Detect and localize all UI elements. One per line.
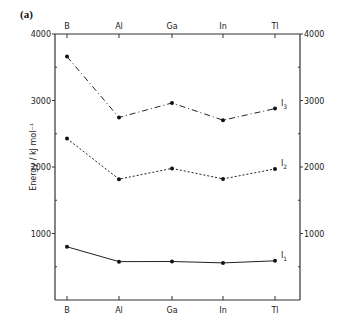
- y-label-left: 1000: [31, 230, 51, 239]
- data-point: [273, 259, 277, 263]
- data-point: [221, 118, 225, 122]
- data-point: [273, 107, 277, 111]
- y-label-left: 4000: [31, 30, 51, 39]
- data-point: [117, 177, 121, 181]
- x-label-top: Ga: [166, 22, 177, 31]
- x-label-bottom: In: [219, 306, 226, 315]
- series-label-I3: I3: [281, 99, 287, 110]
- data-point: [65, 245, 69, 249]
- data-point: [170, 101, 174, 105]
- x-label-bottom: Tl: [270, 306, 278, 315]
- data-point: [273, 167, 277, 171]
- x-label-top: Al: [115, 22, 123, 31]
- x-label-top: In: [219, 22, 226, 31]
- data-point: [221, 261, 225, 265]
- y-label-left: 3000: [31, 97, 51, 106]
- x-label-bottom: B: [64, 306, 70, 315]
- series-line-I3: [67, 57, 275, 121]
- y-label-right: 2000: [304, 163, 324, 172]
- data-point: [170, 166, 174, 170]
- data-point: [170, 259, 174, 263]
- data-point: [65, 55, 69, 59]
- y-label-right: 3000: [304, 97, 324, 106]
- series-label-I2: I2: [281, 159, 287, 170]
- data-point: [221, 177, 225, 181]
- data-point: [117, 115, 121, 119]
- ionization-energy-chart: BBAlAlGaGaInInTlTl1000100020002000300030…: [0, 0, 338, 332]
- x-label-top: Tl: [270, 22, 278, 31]
- series-label-I1: I1: [281, 251, 287, 262]
- x-label-bottom: Al: [115, 306, 123, 315]
- y-label-right: 4000: [304, 30, 324, 39]
- x-label-top: B: [64, 22, 70, 31]
- y-axis-label: Energy / kJ mol⁻¹: [29, 123, 38, 191]
- data-point: [65, 137, 69, 141]
- data-point: [117, 260, 121, 264]
- series-line-I2: [67, 139, 275, 180]
- x-label-bottom: Ga: [166, 306, 177, 315]
- y-label-right: 1000: [304, 230, 324, 239]
